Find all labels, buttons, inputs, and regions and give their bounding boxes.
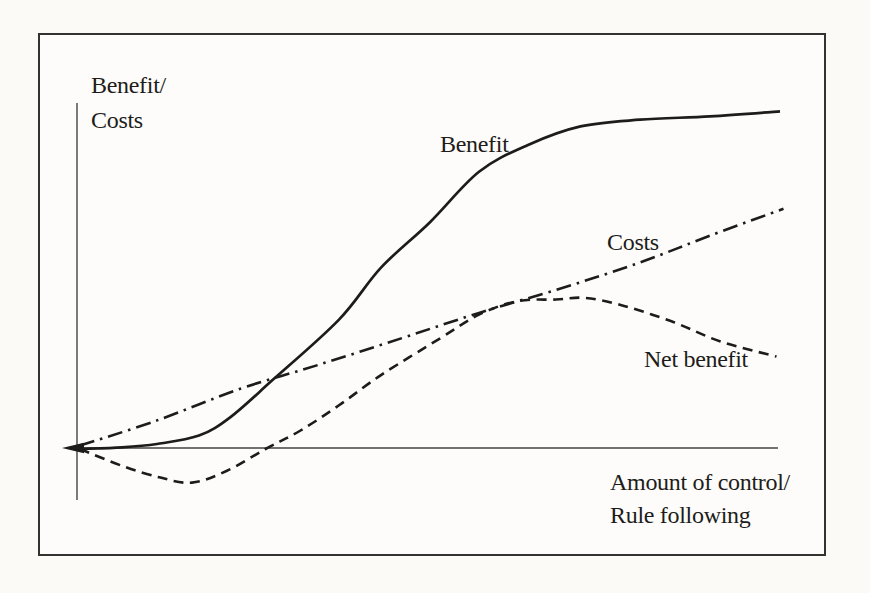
curve-net-benefit <box>80 298 777 483</box>
y-axis-title: Benefit/ Costs <box>91 68 166 138</box>
figure-page: { "figure": { "background": "#fbfaf7", "… <box>0 0 870 593</box>
x-axis-title-line1: Amount of control/ <box>610 466 790 499</box>
curve-costs <box>80 209 784 446</box>
series-label-benefit: Benefit <box>440 128 509 161</box>
x-axis-title: Amount of control/ Rule following <box>610 466 790 532</box>
series-label-costs: Costs <box>607 226 659 259</box>
x-axis-title-line2: Rule following <box>610 499 790 532</box>
series-label-net-benefit: Net benefit <box>644 343 748 376</box>
curve-benefit <box>80 111 780 449</box>
y-axis-title-line1: Benefit/ <box>91 68 166 103</box>
y-axis-title-line2: Costs <box>91 103 166 138</box>
